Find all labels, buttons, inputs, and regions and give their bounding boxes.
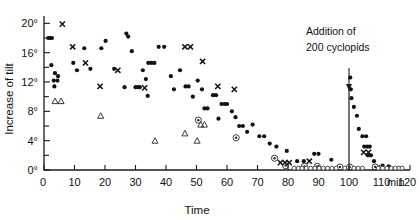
x-axis-title: Time [184,204,209,216]
x-tick-label: 100 [340,176,358,188]
data-point [271,155,277,161]
data-point [329,158,333,162]
x-tick-label: 50 [190,176,202,188]
data-point [385,166,389,170]
x-tick-label: 80 [282,176,294,188]
data-point [372,159,376,163]
y-tick-label: 0° [27,164,38,176]
x-tick-label: 70 [251,176,263,188]
y-tick-label: 12° [21,76,38,88]
series-open-triangle [52,98,207,143]
data-point [313,166,317,170]
marker-core [348,166,350,168]
data-point [241,124,245,128]
annotation-line-2: 200 cyclopids [306,41,370,53]
x-axis-unit-label: min [387,176,405,188]
y-tick-label: 4° [27,135,38,147]
data-point [88,67,92,71]
data-point [130,49,134,53]
y-tick-label: 16° [21,47,38,59]
data-point [182,44,187,49]
data-point [364,134,368,138]
data-point [70,44,75,49]
data-point [300,166,304,170]
data-point [307,159,312,164]
data-point [162,45,166,49]
data-point [182,130,188,136]
data-point [122,85,126,89]
data-point [194,138,200,144]
data-point [126,34,130,38]
data-point [389,166,393,170]
data-point [56,74,60,78]
x-tick-label: 20 [99,176,111,188]
data-point [361,150,366,155]
data-point [360,166,364,170]
data-point [98,113,104,119]
x-tick-label: 40 [160,176,172,188]
marker-core [197,119,199,121]
data-point [83,60,88,65]
data-point [355,114,359,118]
data-point [141,68,145,72]
data-point [343,166,347,170]
data-point [352,166,356,170]
data-point [49,63,53,67]
data-point [317,166,321,170]
data-point [115,68,120,73]
data-point [356,166,360,170]
x-tick-label: 30 [129,176,141,188]
data-point [232,87,237,92]
marker-core [339,166,341,168]
data-point [172,87,176,91]
y-tick-label: 8° [27,105,38,117]
data-point [205,106,209,110]
data-point [400,166,404,170]
data-point [262,134,266,138]
marker-core [284,164,286,166]
data-point [104,39,108,43]
data-point [215,84,220,89]
x-tick-label: 90 [312,176,324,188]
data-point [381,166,385,170]
data-point [98,84,103,89]
data-point [285,149,289,153]
data-point [99,46,103,50]
data-point [357,127,361,131]
x-tick-label: 10 [68,176,80,188]
data-point [195,117,201,123]
data-point [200,87,204,91]
data-point [326,166,330,170]
data-point [138,85,142,89]
data-point [191,95,195,99]
data-point [169,74,173,78]
data-point [144,77,148,81]
data-point [360,134,364,138]
data-point [52,78,56,82]
scatter-plot: 0102030405060708090100110120min0°4°8°12°… [0,0,420,220]
data-point [251,122,255,126]
data-point [186,84,190,88]
data-point [152,61,156,65]
data-point [52,84,56,88]
data-point [268,142,272,146]
series-circled-dot [195,117,378,170]
data-point [52,98,58,104]
data-point [237,124,241,128]
data-point [352,105,356,109]
data-point [309,166,313,170]
data-point [178,68,182,72]
data-point [274,144,278,148]
chart-container: 0102030405060708090100110120min0°4°8°12°… [0,0,420,220]
data-point [330,166,334,170]
data-point [302,159,306,163]
marker-core [235,137,237,139]
data-point [257,134,261,138]
annotation-line-1: Addition of [306,25,356,37]
data-point [349,96,353,100]
data-point [152,138,158,144]
data-point [200,59,205,64]
data-point [312,152,316,156]
plot-axes [44,16,410,170]
data-point [233,135,239,141]
